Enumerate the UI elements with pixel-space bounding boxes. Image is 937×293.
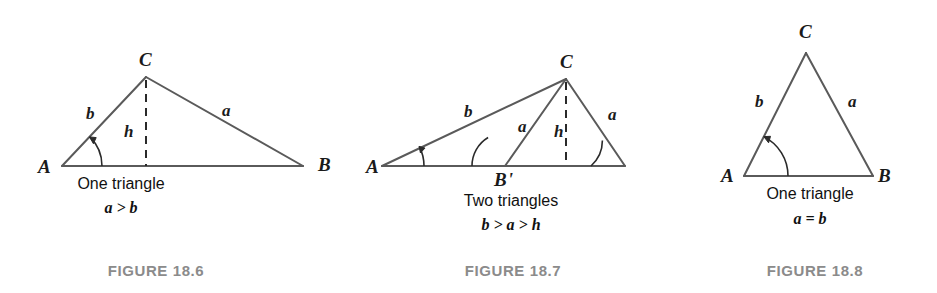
vertex-label-A: A [721, 166, 734, 185]
figure-18-7-description-line1: Two triangles [464, 193, 558, 209]
side-label-a-inner: a [518, 118, 527, 135]
vertex-label-A: A [38, 157, 51, 176]
angle-arc-A [90, 137, 102, 166]
side-label-b: b [86, 105, 95, 122]
segment-CB-side-a [806, 53, 873, 176]
vertex-label-B-of-previous-figure: B [318, 155, 331, 174]
side-label-a: a [222, 102, 231, 119]
figure-18-7-drawing [312, 0, 680, 250]
figure-18-6-description-line2: a > b [104, 200, 137, 216]
side-label-b: b [755, 93, 764, 110]
figure-18-8-panel: A B C b a One triangle a = b FIGURE 18.8 [680, 0, 937, 293]
figure-18-6-description-line1: One triangle [77, 176, 164, 192]
figure-sheet: A C b a h One triangle a > b FIGURE 18.6 [0, 0, 937, 293]
figure-18-8-description-line2: a = b [793, 211, 826, 227]
figure-18-6-caption: FIGURE 18.6 [108, 263, 205, 278]
segment-CB-side-a [146, 77, 303, 166]
angle-arc-Bprime [472, 138, 488, 167]
side-label-h: h [124, 123, 133, 140]
vertex-label-B: B [878, 166, 891, 185]
vertex-label-C: C [799, 22, 812, 41]
side-label-b: b [464, 103, 473, 120]
figure-18-7-description-line2: b > a > h [481, 217, 540, 233]
segment-AC-side-b [744, 53, 806, 176]
angle-arc-A-arrowhead [764, 136, 771, 143]
figure-18-8-caption: FIGURE 18.8 [767, 263, 864, 278]
vertex-label-C: C [560, 52, 573, 71]
side-label-h: h [554, 123, 563, 140]
side-label-a-outer: a [608, 106, 617, 123]
figure-18-6-drawing [0, 0, 312, 250]
segment-AC-side-b [62, 77, 146, 166]
vertex-label-B-prime: B' [494, 170, 514, 189]
figure-18-7-caption: FIGURE 18.7 [465, 263, 562, 278]
angle-arc-B [591, 141, 602, 166]
figure-18-7-panel: B A C B' b a a h Two triangles b > a > h… [312, 0, 680, 293]
vertex-label-C: C [139, 50, 152, 69]
side-label-a: a [848, 93, 857, 110]
figure-18-6-panel: A C b a h One triangle a > b FIGURE 18.6 [0, 0, 312, 293]
figure-18-8-description-line1: One triangle [766, 186, 853, 202]
vertex-label-A: A [366, 157, 379, 176]
angle-arc-A [764, 137, 788, 176]
